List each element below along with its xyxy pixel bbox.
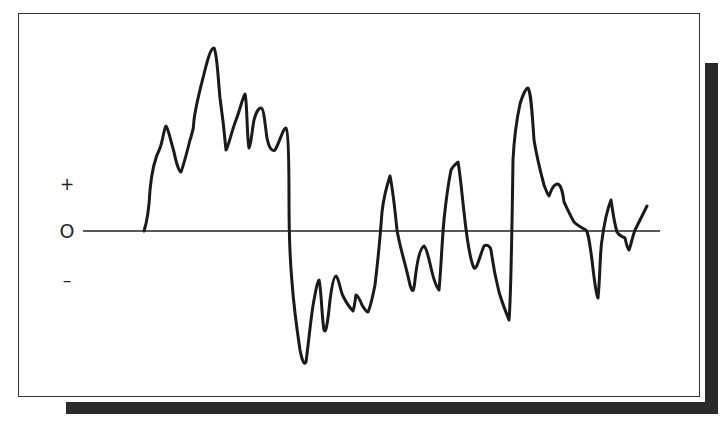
y-tick-plus-label: + [57,176,77,193]
y-tick-zero-label: O [57,222,77,241]
line-plot [0,0,723,422]
signal-line [144,48,647,363]
y-tick-minus-label: – [57,272,77,289]
